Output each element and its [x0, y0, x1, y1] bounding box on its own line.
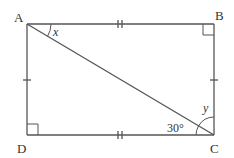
- right-angle-d: [27, 124, 38, 135]
- vertex-label-d: D: [17, 141, 26, 156]
- right-angle-b: [203, 24, 214, 35]
- angle-arc-30: [196, 126, 199, 135]
- angle-label-y: y: [202, 101, 209, 115]
- vertex-label-c: C: [210, 141, 219, 156]
- angle-arc-x: [48, 24, 51, 36]
- geometry-diagram: A B C D x y 30°: [0, 0, 234, 158]
- angle-label-30: 30°: [167, 121, 184, 135]
- vertex-label-b: B: [215, 8, 224, 23]
- angle-label-x: x: [52, 25, 59, 39]
- vertex-label-a: A: [14, 10, 24, 25]
- diagonal-ac: [27, 24, 214, 135]
- angle-arc-y: [199, 117, 215, 126]
